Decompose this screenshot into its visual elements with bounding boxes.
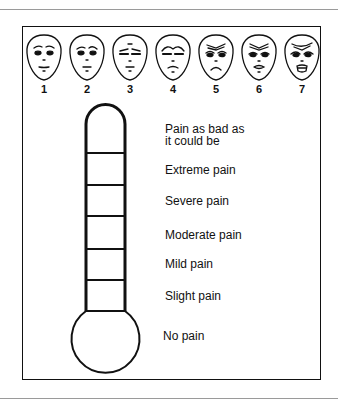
level-label-mild: Mild pain [165, 258, 213, 270]
face-label: 5 [206, 83, 226, 95]
face-7-icon [285, 35, 319, 80]
face-3-icon [113, 35, 147, 80]
level-label-worst-line2: it could be [165, 135, 220, 147]
face-label: 1 [34, 83, 54, 95]
thermometer-icon [71, 105, 139, 373]
face-label: 6 [249, 83, 269, 95]
face-6-icon [242, 35, 276, 80]
level-label-none: No pain [163, 330, 204, 342]
face-label: 2 [77, 83, 97, 95]
face-label: 7 [292, 83, 312, 95]
level-label-severe: Severe pain [165, 195, 229, 207]
face-4-icon [156, 35, 190, 80]
face-2-icon [70, 35, 104, 80]
face-5-icon [199, 35, 233, 80]
face-label: 3 [120, 83, 140, 95]
level-label-slight: Slight pain [165, 290, 221, 302]
face-label: 4 [163, 83, 183, 95]
level-label-moderate: Moderate pain [165, 229, 242, 241]
level-label-extreme: Extreme pain [165, 164, 236, 176]
face-1-icon [27, 35, 61, 80]
